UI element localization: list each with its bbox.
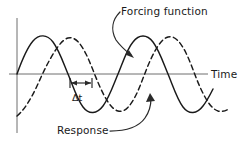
response-arrowhead [146,93,155,102]
phase-lag-label: Δt [72,92,82,103]
forcing-function-label: Forcing function [121,5,208,17]
time-axis-label: Time [210,68,237,80]
response-label: Response [57,124,109,136]
response-leader-line [110,98,151,131]
phase-lag-right-arrowhead [85,81,91,86]
waveform-figure: Δt Forcing function Response Time [0,0,239,146]
